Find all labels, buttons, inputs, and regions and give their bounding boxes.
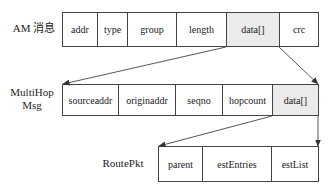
field-group: group (128, 13, 177, 46)
arrow-am-data-left (63, 47, 226, 84)
multihop-msg-label: MultiHop Msg (4, 86, 60, 112)
multihop-msg-label-line1: MultiHop (4, 86, 60, 99)
routepkt-label: RoutePkt (96, 157, 150, 170)
field-originaddr: originaddr (119, 85, 176, 115)
field-estlist: estList (272, 147, 318, 181)
field-sourceaddr: sourceaddr (63, 85, 119, 115)
field-seqno: seqno (176, 85, 223, 115)
arrow-multihop-data-left (159, 116, 272, 146)
field-estentries: estEntries (203, 147, 272, 181)
field-hopcount: hopcount (223, 85, 273, 115)
field-data: data[] (273, 85, 318, 115)
field-crc: crc (280, 13, 318, 46)
arrow-am-data-right (279, 47, 318, 84)
field-data: data[] (227, 13, 280, 46)
field-type: type (98, 13, 128, 46)
am-message-packet: addr type group length data[] crc (62, 12, 319, 47)
multihop-msg-packet: sourceaddr originaddr seqno hopcount dat… (62, 84, 319, 116)
am-message-label: AM 消息 (8, 22, 60, 35)
field-length: length (177, 13, 227, 46)
field-parent: parent (159, 147, 203, 181)
routepkt-packet: parent estEntries estList (158, 146, 319, 182)
field-addr: addr (63, 13, 98, 46)
multihop-msg-label-line2: Msg (4, 99, 60, 112)
